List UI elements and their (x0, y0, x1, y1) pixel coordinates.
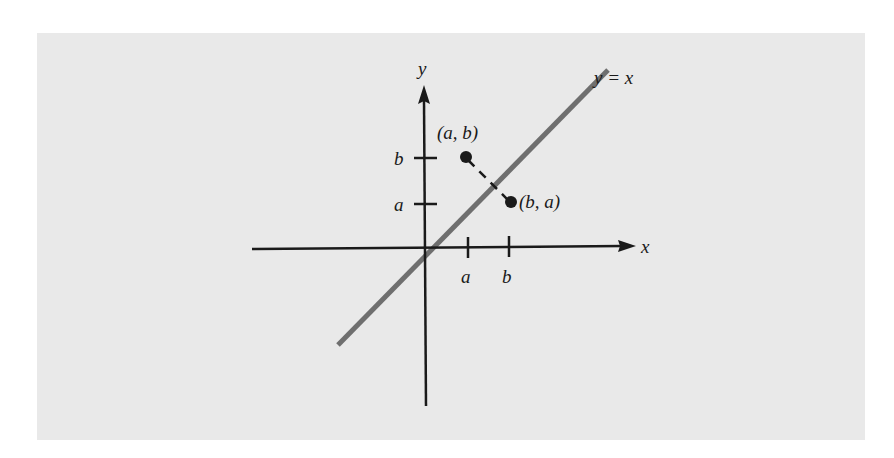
x-tick-label-b: b (502, 266, 512, 287)
point-b-a (505, 196, 517, 208)
x-axis-arrow-icon (618, 240, 636, 252)
point-label-b-a: (b, a) (519, 191, 560, 213)
line-label: y = x (592, 67, 634, 88)
y-tick-label-a: a (394, 194, 404, 215)
y-tick-label-b: b (394, 148, 404, 169)
x-axis-label: x (640, 236, 650, 257)
line-y-equals-x (338, 70, 608, 345)
x-tick-label-a: a (461, 266, 471, 287)
point-a-b (460, 151, 472, 163)
point-label-a-b: (a, b) (437, 122, 478, 144)
y-axis-label: y (416, 58, 427, 79)
y-axis (418, 85, 430, 406)
x-axis (252, 240, 636, 252)
reflection-diagram: x y a b b a (a, b) (b, a) y = x (0, 0, 894, 458)
